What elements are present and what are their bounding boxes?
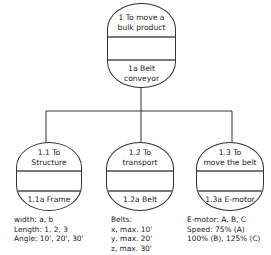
child-node-transport: 1.2 To transport 1.2a Belt	[106, 142, 174, 211]
root-solution-line-2: conveyor	[124, 74, 159, 84]
child-function-line-1: 1.3 To	[219, 148, 241, 158]
child-function: 1.3 To move the belt	[197, 147, 263, 169]
note-line: Angle: 10', 20', 30'	[14, 234, 84, 244]
root-function-line-2: bulk product	[118, 23, 166, 33]
root-solution: 1a Belt conveyor	[108, 63, 175, 85]
note-line: Belts:	[111, 215, 152, 225]
child-function-line-2: Structure	[31, 158, 66, 168]
note-line: z, max. 30'	[111, 244, 152, 254]
note-line: width: a, b	[14, 215, 84, 225]
child-function: 1.2 To transport	[107, 147, 173, 169]
child-divider-band	[107, 170, 173, 192]
child-solution: 1.1a Frame	[17, 194, 81, 206]
root-function-line-1: 1 To move a	[119, 13, 165, 23]
child-function: 1.1 To Structure	[17, 147, 81, 169]
note-line: x, max. 10'	[111, 225, 152, 235]
child-solution: 1.3a E-motor	[197, 194, 263, 206]
root-node: 1 To move a bulk product 1a Belt conveyo…	[107, 3, 176, 88]
child-function-line-2: transport	[122, 158, 157, 168]
child-notes-move-belt: E-motor: A, B, C Speed: 75% (A) 100% (B)…	[187, 215, 260, 244]
child-node-structure: 1.1 To Structure 1.1a Frame	[16, 142, 82, 211]
root-divider-band	[108, 36, 175, 61]
child-function-line-2: move the belt	[203, 158, 256, 168]
root-solution-line-1: 1a Belt	[128, 64, 155, 74]
note-line: 100% (B), 125% (C)	[187, 234, 260, 244]
child-notes-structure: width: a, b Length: 1, 2, 3 Angle: 10', …	[14, 215, 84, 244]
note-line: Length: 1, 2, 3	[14, 225, 84, 235]
child-notes-transport: Belts: x, max. 10' y, max. 20' z, max. 3…	[111, 215, 152, 253]
note-line: E-motor: A, B, C	[187, 215, 260, 225]
child-divider-band	[17, 170, 81, 192]
child-function-line-1: 1.1 To	[38, 148, 60, 158]
child-node-move-belt: 1.3 To move the belt 1.3a E-motor	[196, 142, 264, 211]
child-solution: 1.2a Belt	[107, 194, 173, 206]
root-function: 1 To move a bulk product	[108, 11, 175, 35]
child-divider-band	[197, 170, 263, 192]
note-line: Speed: 75% (A)	[187, 225, 260, 235]
note-line: y, max. 20'	[111, 234, 152, 244]
child-function-line-1: 1.2 To	[129, 148, 151, 158]
